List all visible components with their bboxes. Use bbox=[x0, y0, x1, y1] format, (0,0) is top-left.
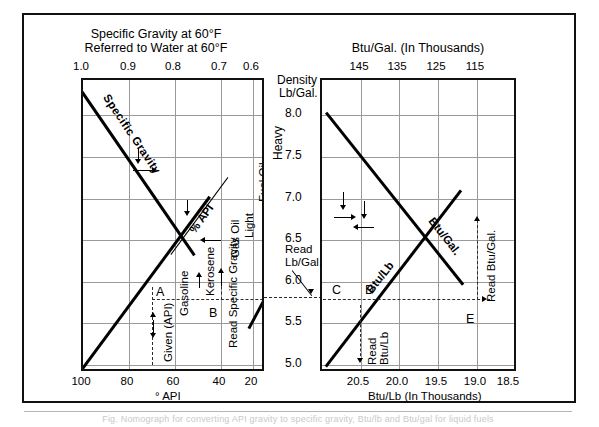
arrow-down-icon bbox=[340, 205, 346, 210]
gridline-h bbox=[322, 365, 514, 366]
arrow-stem bbox=[343, 192, 344, 206]
gridline-h bbox=[83, 365, 262, 366]
left-xbottom-tick: 40 bbox=[213, 375, 226, 387]
right-xbottom-tick: 18.5 bbox=[497, 375, 519, 387]
gridline-h bbox=[322, 157, 514, 158]
read-line-right bbox=[320, 299, 490, 300]
gridline-h bbox=[83, 157, 262, 158]
read-btu-gal-dash bbox=[477, 220, 478, 300]
point-a-label: A bbox=[156, 285, 164, 299]
gridline-h bbox=[83, 115, 262, 116]
read-btu-lb-label-line1: Read bbox=[366, 338, 378, 366]
kerosene-label: Kerosene bbox=[204, 247, 216, 296]
gridline-h bbox=[322, 199, 514, 200]
left-xbottom-tick: 80 bbox=[121, 375, 134, 387]
specific-gravity-line-upper bbox=[248, 296, 264, 329]
point-b-label: B bbox=[209, 306, 217, 320]
arrow-left-icon bbox=[200, 237, 205, 243]
left-chart-title-line2: Referred to Water at 60°F bbox=[56, 41, 256, 55]
arrow-left-icon bbox=[353, 224, 358, 230]
arrow-down-icon bbox=[150, 333, 156, 338]
arrow-stem bbox=[199, 276, 200, 288]
arrow-down-icon bbox=[357, 358, 363, 363]
read-lb-gal-label-line2: Lb/Gal. bbox=[285, 256, 322, 268]
arrow-stem bbox=[153, 320, 154, 334]
arrow-up-icon bbox=[150, 312, 156, 317]
read-btu-lb-dash bbox=[360, 305, 361, 361]
density-tick: 7.5 bbox=[285, 148, 302, 162]
left-xbottom-tick: 20 bbox=[245, 375, 258, 387]
heavy-label: Heavy bbox=[271, 126, 285, 160]
left-xtop-tick: 0.6 bbox=[243, 60, 259, 72]
right-xbottom-tick: 19.0 bbox=[464, 375, 486, 387]
figure-caption: Fig. Nomograph for converting API gravit… bbox=[24, 414, 572, 424]
arrow-down-icon bbox=[361, 214, 367, 219]
arrow-down-icon bbox=[184, 211, 190, 216]
right-chart-title: Btu/Gal. (In Thousands) bbox=[333, 41, 503, 55]
left-axis-label-api: ° API bbox=[155, 390, 181, 402]
gasoline-label: Gasoline bbox=[178, 271, 190, 316]
gridline-h bbox=[322, 323, 514, 324]
read-specific-gravity-label-line1: Read Specific Gravity bbox=[227, 237, 239, 348]
arrow-right-icon bbox=[351, 214, 356, 220]
point-c-label: C bbox=[332, 283, 341, 297]
read-line-center bbox=[264, 297, 322, 298]
left-xtop-tick: 0.9 bbox=[120, 60, 136, 72]
right-axis-label-btu-lb: Btu/Lb (In Thousands) bbox=[368, 390, 482, 402]
right-plot-area: Btu/Gal. Btu/Lb Read Btu/Gal. Read Btu/L… bbox=[320, 78, 516, 371]
right-xtop-tick: 135 bbox=[387, 60, 406, 72]
read-btu-lb-label-line2: Btu/Lb bbox=[378, 332, 390, 365]
right-xtop-tick: 145 bbox=[349, 60, 368, 72]
light-label: Light bbox=[243, 213, 255, 238]
arrow-stem bbox=[358, 227, 374, 228]
right-xtop-tick: 115 bbox=[466, 60, 484, 72]
arrow-stem bbox=[221, 272, 222, 286]
read-btu-gal-label: Read Btu/Gal. bbox=[485, 230, 497, 302]
point-d-label: D bbox=[365, 283, 374, 297]
right-xbottom-tick: 19.5 bbox=[425, 375, 447, 387]
btu-gal-label: Btu/Gal. bbox=[427, 215, 464, 257]
center-axis-title-line2: Lb/Gal. bbox=[279, 86, 318, 100]
gridline-v bbox=[399, 80, 400, 369]
gridline-h bbox=[83, 199, 262, 200]
gridline-h bbox=[322, 115, 514, 116]
left-chart-title-line1: Specific Gravity at 60°F bbox=[61, 27, 251, 41]
arrow-stem bbox=[205, 240, 221, 241]
left-xtop-tick: 0.8 bbox=[165, 60, 181, 72]
left-xbottom-tick: 60 bbox=[167, 375, 180, 387]
density-tick: 5.0 bbox=[285, 356, 302, 370]
nomograph-figure: Specific Gravity at 60°F Referred to Wat… bbox=[0, 0, 599, 427]
caption-rule bbox=[24, 411, 572, 412]
arrow-up-icon bbox=[196, 272, 202, 277]
gridline-v bbox=[361, 80, 362, 369]
read-line-left bbox=[152, 299, 264, 300]
arrow-right-icon bbox=[152, 167, 157, 173]
left-xtop-tick: 1.0 bbox=[73, 60, 89, 72]
arrow-stem bbox=[133, 170, 153, 171]
left-xtop-tick: 0.7 bbox=[211, 60, 227, 72]
right-xbottom-tick: 20.0 bbox=[386, 375, 408, 387]
arrow-up-icon bbox=[474, 216, 480, 221]
arrow-stem bbox=[334, 217, 352, 218]
arrow-right-icon bbox=[482, 296, 487, 302]
left-plot-area: Specific Gravity % API Gasoline Kerosene… bbox=[81, 78, 264, 371]
arrow-up-icon bbox=[218, 268, 224, 273]
arrow-down-icon bbox=[135, 159, 141, 164]
fuel-oil-label: Fuel Oil bbox=[257, 162, 264, 202]
right-xbottom-tick: 20.5 bbox=[347, 375, 369, 387]
arrow-down-icon bbox=[308, 289, 314, 294]
gridline-v bbox=[221, 80, 222, 369]
density-tick: 7.0 bbox=[285, 190, 302, 204]
center-axis-title-line1: Density bbox=[277, 73, 317, 87]
density-tick: 8.0 bbox=[285, 106, 302, 120]
arrow-stem bbox=[364, 201, 365, 215]
density-tick: 5.5 bbox=[285, 314, 302, 328]
given-api-label: Given (API) bbox=[162, 303, 174, 362]
left-xbottom-tick: 100 bbox=[71, 375, 90, 387]
read-lb-gal-label-line1: Read bbox=[285, 243, 313, 255]
right-xtop-tick: 125 bbox=[426, 60, 445, 72]
point-e-label: E bbox=[466, 312, 474, 326]
